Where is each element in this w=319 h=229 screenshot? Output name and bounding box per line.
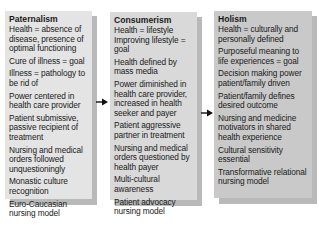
list-item: Cultural sensitivity essential	[218, 146, 308, 165]
list-item: Patient submissive, passive recipient of…	[9, 114, 88, 143]
list-item: Patient advocacy nursing model	[114, 198, 193, 217]
arrow-right-icon	[201, 109, 213, 117]
paternalism-box: Paternalism Health = absence of disease,…	[5, 11, 92, 199]
list-item: Health = culturally and personally defin…	[218, 25, 308, 44]
list-item: Patient/family defines desired outcome	[218, 92, 308, 111]
list-item: Transformative relational nursing model	[218, 168, 308, 187]
list-item: Decision making power patient/family dri…	[218, 69, 308, 88]
holism-title: Holism	[218, 14, 308, 24]
list-item: Nursing and medicine motivators in share…	[218, 114, 308, 143]
consumerism-box: Consumerism Health = lifestyle Improving…	[110, 12, 197, 200]
arrow-right-icon	[96, 98, 108, 106]
holism-box: Holism Health = culturally and personall…	[214, 11, 312, 198]
list-item: Illness = pathology to be rid of	[9, 69, 88, 88]
list-item: Nursing and medical orders questioned by…	[114, 144, 193, 173]
list-item: Purposeful meaning to life experiences =…	[218, 47, 308, 66]
list-item: Power diminished in health care provider…	[114, 80, 193, 118]
list-item: Monastic culture recognition	[9, 177, 88, 196]
list-item: Patient aggressive partner in treatment	[114, 121, 193, 140]
list-item: Multi-cultural awareness	[114, 175, 193, 194]
list-item: Nursing and medical orders followed unqu…	[9, 146, 88, 175]
list-item: Euro-Caucasian nursing model	[9, 200, 88, 219]
list-item: Improving lifestyle = goal	[114, 36, 193, 55]
list-item: Cure of illness = goal	[9, 57, 88, 67]
paternalism-title: Paternalism	[9, 14, 88, 24]
list-item: Health = absence of disease, presence of…	[9, 25, 88, 54]
consumerism-title: Consumerism	[114, 15, 193, 25]
list-item: Health defined by mass media	[114, 58, 193, 77]
list-item: Power centered in health care provider	[9, 92, 88, 111]
